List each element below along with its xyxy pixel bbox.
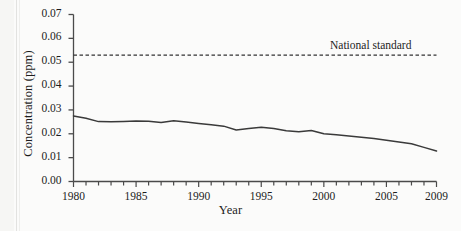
x-tick-label: 1990	[174, 190, 224, 202]
y-tick-label: 0.07	[22, 7, 62, 19]
x-tick-label: 1980	[49, 190, 99, 202]
y-tick-label: 0.02	[22, 126, 62, 138]
x-tick-label: 1995	[236, 190, 286, 202]
y-tick-label: 0.04	[22, 78, 62, 90]
national-standard-annotation: National standard	[330, 39, 411, 51]
x-tick-label: 1985	[111, 190, 161, 202]
y-tick-label: 0.03	[22, 102, 62, 114]
x-tick-label: 2000	[299, 190, 349, 202]
y-tick-label: 0.05	[22, 54, 62, 66]
x-tick-label: 2005	[361, 190, 411, 202]
y-tick-label: 0.06	[22, 30, 62, 42]
x-tick-label: 2009	[412, 190, 461, 202]
data-line-concentration	[74, 116, 437, 151]
chart-figure: Concentration (ppm) Year National standa…	[0, 0, 461, 231]
y-tick-label: 0.00	[22, 174, 62, 186]
y-tick-label: 0.01	[22, 150, 62, 162]
x-axis-title: Year	[0, 203, 461, 218]
